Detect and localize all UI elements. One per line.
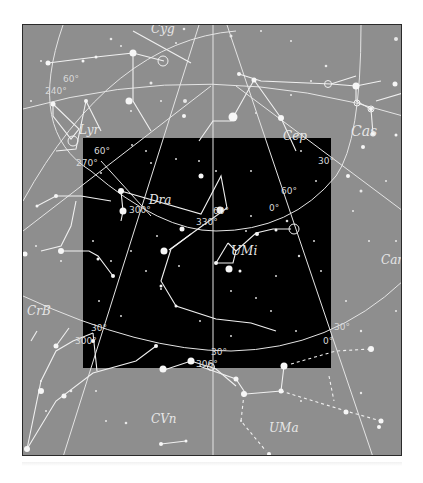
label-cyg: Cyg — [151, 24, 175, 36]
degree-label: 0° — [269, 203, 279, 213]
degree-label: 60° — [94, 146, 110, 156]
degree-label: 30° — [91, 323, 107, 333]
star-chart: Cyg Cep Cas Lyr Dra UMi Cam CrB CVn UMa … — [22, 24, 402, 456]
label-lyr: Lyr — [78, 123, 101, 137]
degree-label: 30° — [318, 156, 334, 166]
degree-label: 60° — [63, 74, 79, 84]
degree-label: 60° — [213, 206, 229, 216]
degree-label: 30° — [211, 347, 227, 357]
label-cvn: CVn — [151, 412, 177, 426]
degree-label: 270° — [76, 158, 98, 168]
coordinate-grid — [23, 25, 402, 456]
label-cam: Cam — [381, 253, 402, 267]
label-dra: Dra — [148, 193, 172, 207]
label-uma: UMa — [269, 421, 299, 435]
label-cep: Cep — [283, 129, 307, 143]
label-umi: UMi — [231, 244, 257, 258]
degree-label: 300° — [75, 336, 97, 346]
degree-label: 240° — [45, 86, 67, 96]
degree-label: 306° — [196, 359, 218, 369]
degree-label: 330° — [196, 217, 218, 227]
label-cas: Cas — [351, 123, 377, 139]
degree-label: 30° — [334, 322, 350, 332]
degree-label: 0° — [323, 336, 333, 346]
degree-label: 300° — [129, 205, 151, 215]
frame-shadow — [22, 462, 402, 466]
star-map: Cyg Cep Cas Lyr Dra UMi Cam CrB CVn UMa … — [22, 24, 402, 456]
degree-label: 60° — [281, 186, 297, 196]
label-crb: CrB — [27, 304, 51, 318]
